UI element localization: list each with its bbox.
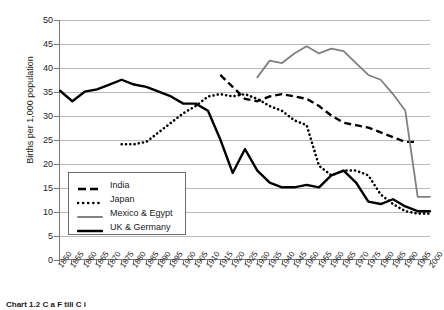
y-tick-label: 50 (43, 16, 53, 25)
y-axis-tick-labels: 05101520253035404550 (0, 20, 53, 260)
legend-swatch-icon (77, 194, 103, 204)
series-line-mexico-egypt (257, 46, 430, 197)
y-tick-label: 30 (43, 112, 53, 121)
x-axis-tick-labels: 1850185518601865187018751880188518901895… (59, 265, 444, 305)
chart-legend: IndiaJapanMexico & EgyptUK & Germany (68, 172, 186, 235)
y-tick-label: 45 (43, 40, 53, 49)
legend-item-japan: Japan (77, 192, 185, 206)
y-tick-label: 0 (48, 256, 53, 265)
y-tick-label: 40 (43, 64, 53, 73)
y-tick-mark (54, 260, 59, 261)
y-tick-mark (54, 116, 59, 117)
y-tick-mark (54, 140, 59, 141)
y-tick-mark (54, 68, 59, 69)
y-tick-label: 25 (43, 136, 53, 145)
y-tick-mark (54, 212, 59, 213)
y-tick-mark (54, 20, 59, 21)
legend-swatch-icon (77, 208, 103, 218)
y-tick-mark (54, 236, 59, 237)
y-tick-label: 15 (43, 184, 53, 193)
series-line-india (220, 75, 417, 142)
birth-rate-line-chart: Births per 1,000 population 051015202530… (0, 0, 444, 310)
legend-item-mexico-egypt: Mexico & Egypt (77, 206, 185, 220)
legend-item-india: India (77, 178, 185, 192)
y-tick-mark (54, 164, 59, 165)
y-tick-label: 35 (43, 88, 53, 97)
legend-item-uk-germany: UK & Germany (77, 220, 185, 234)
y-tick-label: 10 (43, 208, 53, 217)
legend-swatch-icon (77, 222, 103, 232)
y-tick-label: 5 (48, 232, 53, 241)
y-tick-mark (54, 188, 59, 189)
legend-swatch-icon (77, 180, 103, 190)
figure-caption: Chart 1.2 C a F tili C i (6, 300, 444, 310)
y-tick-mark (54, 44, 59, 45)
legend-label: Mexico & Egypt (110, 209, 173, 218)
legend-label: India (110, 181, 130, 190)
y-tick-label: 20 (43, 160, 53, 169)
y-tick-mark (54, 92, 59, 93)
legend-label: Japan (110, 195, 135, 204)
legend-label: UK & Germany (110, 223, 171, 232)
